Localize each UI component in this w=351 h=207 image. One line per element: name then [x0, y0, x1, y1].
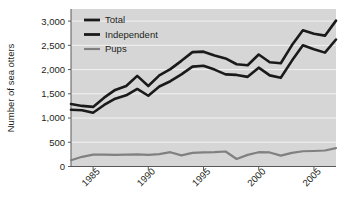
- y-tick-label: 1,500: [41, 88, 65, 99]
- y-tick-label: 3,000: [41, 16, 65, 27]
- y-tick-label: 500: [49, 137, 65, 148]
- y-tick-label: 0: [60, 161, 65, 172]
- legend-label-independent: Independent: [105, 29, 158, 40]
- y-tick-label: 1,000: [41, 112, 65, 123]
- legend-label-total: Total: [105, 14, 125, 25]
- y-axis-title: Number of sea otters: [5, 43, 16, 132]
- sea-otter-line-chart: 05001,0001,5002,0002,5003,000 1985199019…: [0, 0, 351, 207]
- y-tick-label: 2,500: [41, 40, 65, 51]
- legend-label-pups: Pups: [105, 43, 127, 54]
- chart-canvas: 05001,0001,5002,0002,5003,000 1985199019…: [0, 0, 351, 207]
- y-tick-label: 2,000: [41, 64, 65, 75]
